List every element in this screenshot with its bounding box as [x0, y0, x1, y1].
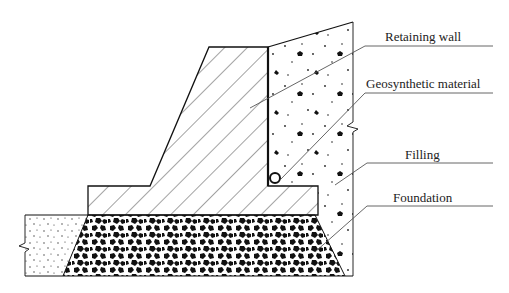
leader-filling: [335, 163, 493, 185]
drain-pipe-icon: [270, 173, 280, 183]
retaining-wall-diagram: Retaining wall Geosynthetic material Fil…: [0, 0, 509, 293]
label-filling: Filling: [405, 147, 440, 162]
label-foundation: Foundation: [393, 190, 453, 205]
foundation-region: [63, 215, 345, 276]
label-geosynthetic-material: Geosynthetic material: [366, 76, 481, 91]
label-retaining-wall: Retaining wall: [385, 29, 462, 44]
